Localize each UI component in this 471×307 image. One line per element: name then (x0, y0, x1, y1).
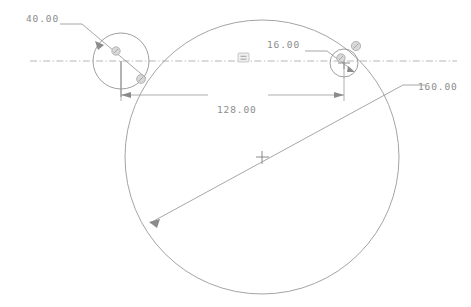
coincident-constraint-right-icon[interactable] (337, 54, 345, 62)
cad-sketch-canvas[interactable]: 40.00 16.00 128.00 160.00 (0, 0, 471, 307)
coincident-constraint-left-icon[interactable] (112, 47, 120, 55)
equal-constraint-icon[interactable] (238, 53, 249, 62)
arrowhead-16 (347, 66, 355, 72)
dimension-128[interactable] (121, 61, 344, 101)
dimension-label-128[interactable]: 128.00 (217, 104, 257, 115)
dimension-label-40[interactable]: 40.00 (26, 13, 59, 24)
dimension-label-160[interactable]: 160.00 (418, 81, 458, 92)
arrowhead-128-left (121, 92, 131, 98)
dimension-label-16[interactable]: 16.00 (267, 39, 300, 50)
arrowhead-128-right (334, 92, 344, 98)
arrowhead-40 (95, 41, 104, 50)
tangent-constraint-right-icon[interactable] (351, 41, 360, 50)
dimension-leader-40[interactable] (60, 24, 146, 78)
tangent-constraint-left-icon[interactable] (137, 75, 146, 84)
dimension-leader-160[interactable] (149, 85, 425, 228)
